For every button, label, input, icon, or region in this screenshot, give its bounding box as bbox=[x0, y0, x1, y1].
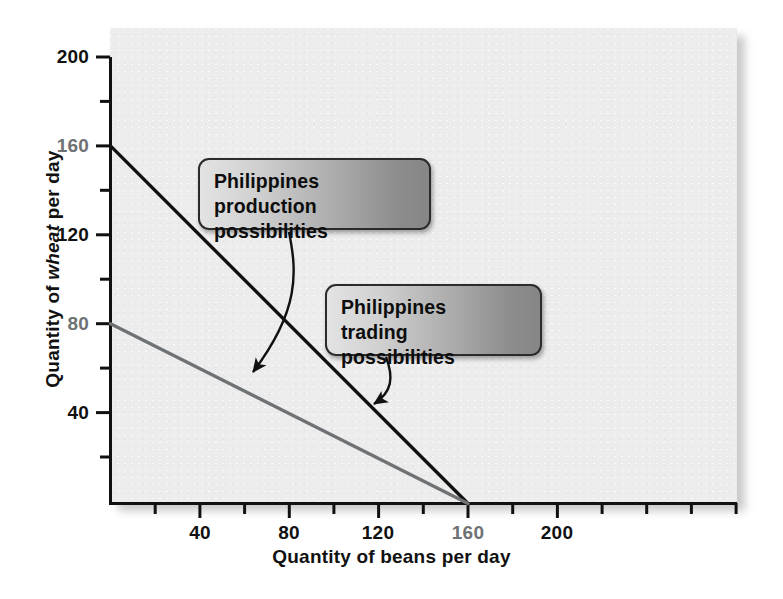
production-callout-arrow bbox=[253, 232, 294, 372]
x-tick-label-160: 160 bbox=[438, 522, 498, 544]
y-axis-title-suffix: per day bbox=[42, 150, 63, 224]
y-tick-label-200: 200 bbox=[31, 46, 89, 68]
x-tick-label-200: 200 bbox=[527, 522, 587, 544]
y-axis-ticks bbox=[96, 57, 110, 457]
callout-trading-possibilities: Philippines trading possibilities bbox=[325, 284, 542, 356]
x-tick-label-80: 80 bbox=[259, 522, 319, 544]
x-axis-title: Quantity of beans per day bbox=[0, 546, 783, 568]
y-axis-title-emphasis: wheat bbox=[42, 225, 63, 280]
x-axis-ticks bbox=[155, 503, 736, 518]
callout-production-line1: Philippines bbox=[214, 169, 415, 194]
x-tick-label-120: 120 bbox=[348, 522, 408, 544]
callout-trading-line1: Philippines bbox=[341, 295, 526, 320]
callout-production-possibilities: Philippines production possibilities bbox=[198, 158, 431, 230]
axis-lines bbox=[109, 57, 737, 504]
y-axis-title-prefix: Quantity of bbox=[42, 280, 63, 388]
callout-trading-line2: trading possibilities bbox=[341, 320, 526, 370]
x-tick-label-40: 40 bbox=[170, 522, 230, 544]
y-axis-title: Quantity of wheat per day bbox=[42, 69, 64, 469]
chart-figure: 200 160 120 80 40 40 80 120 160 200 Quan… bbox=[0, 0, 783, 599]
callout-production-line2: production possibilities bbox=[214, 194, 415, 244]
